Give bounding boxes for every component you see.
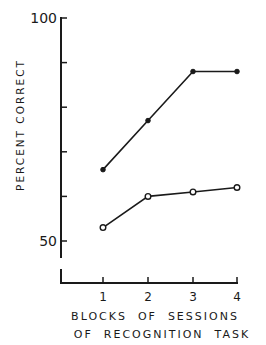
x-axis-title-line-2: OF RECOGNITION TASK (74, 328, 250, 341)
data-point-marker (191, 69, 196, 74)
x-axis-tick-labels: 1234 (99, 290, 241, 304)
y-axis-label: PERCENT CORRECT (14, 59, 26, 191)
x-tick-label-4: 4 (233, 290, 241, 304)
data-point-marker (101, 167, 106, 172)
series-line (103, 187, 237, 227)
data-point-marker (145, 194, 151, 200)
data-point-marker (100, 225, 106, 231)
y-tick-label-100: 100 (30, 10, 57, 26)
y-axis-tick-labels: 100 50 (30, 10, 57, 249)
data-point-marker (235, 69, 240, 74)
x-tick-label-2: 2 (144, 290, 152, 304)
series-open (100, 185, 240, 231)
data-point-marker (190, 189, 196, 195)
y-tick-label-50: 50 (39, 233, 57, 249)
series-layer (100, 69, 240, 230)
data-point-marker (146, 118, 151, 123)
x-axis-title-line-1: BLOCKS OF SESSIONS (71, 310, 239, 323)
data-point-marker (234, 185, 240, 191)
x-tick-label-3: 3 (189, 290, 197, 304)
y-axis-title: PERCENT CORRECT (14, 59, 26, 191)
x-axis-title: BLOCKS OF SESSIONS OF RECOGNITION TASK (71, 310, 250, 341)
line-chart: PERCENT CORRECT 100 50 1234 BLOCKS OF SE… (0, 0, 266, 345)
series-filled (101, 69, 240, 172)
x-tick-label-1: 1 (99, 290, 107, 304)
series-line (103, 72, 237, 170)
